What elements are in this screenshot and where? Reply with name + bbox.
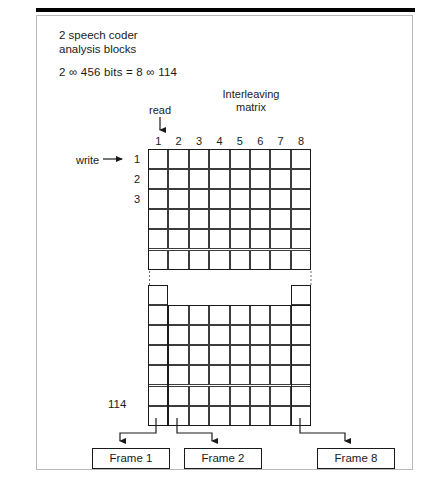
column-header-8: 8 <box>291 135 312 147</box>
write-label: write <box>76 154 99 166</box>
bottom-grid-col1-outline <box>148 285 168 426</box>
frame-box-2: Frame 2 <box>184 448 262 469</box>
row-label-114: 114 <box>108 398 126 410</box>
bottom-grid-col8-outline <box>291 285 311 426</box>
column-header-5: 5 <box>230 135 251 147</box>
row-label-3: 3 <box>122 193 140 205</box>
bottom-grid-body-outline <box>168 305 311 426</box>
frame-box-3: Frame 8 <box>317 448 395 469</box>
column-header-4: 4 <box>209 135 230 147</box>
top-rule-divider <box>36 8 415 12</box>
interleaving-matrix-title: Interleaving matrix <box>196 88 306 114</box>
top-grid-outline <box>148 149 311 270</box>
column-header-7: 7 <box>270 135 291 147</box>
column-header-3: 3 <box>189 135 210 147</box>
column-header-1: 1 <box>148 135 169 147</box>
column-header-row: 12345678 <box>148 135 312 149</box>
frame-box-1: Frame 1 <box>92 448 170 469</box>
caption-speech-coder-blocks: 2 speech coder analysis blocks <box>59 28 138 56</box>
row-label-1: 1 <box>122 153 140 165</box>
row-label-2: 2 <box>122 173 140 185</box>
equation-bits: 2 ∞ 456 bits = 8 ∞ 114 <box>59 66 177 78</box>
read-label: read <box>137 104 183 116</box>
column-header-2: 2 <box>168 135 189 147</box>
column-header-6: 6 <box>250 135 271 147</box>
figure-canvas: 2 speech coder analysis blocks 2 ∞ 456 b… <box>0 0 427 482</box>
